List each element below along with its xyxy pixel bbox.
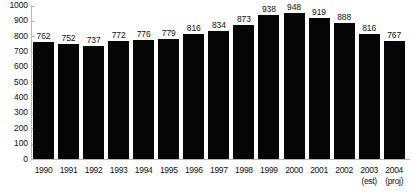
bar[interactable] [258, 15, 279, 159]
y-axis-tick-labels: 10009008007006005004003002001000 [0, 0, 28, 192]
x-axis-category-label: 2004 [379, 165, 410, 175]
x-axis-category-note: (proj) [379, 176, 410, 186]
bar[interactable] [384, 41, 405, 159]
bar[interactable] [133, 40, 154, 159]
bar[interactable] [309, 18, 330, 159]
y-axis-tick-label: 500 [2, 78, 28, 87]
bar[interactable] [284, 13, 305, 159]
bar-group[interactable]: 7672004(proj) [384, 0, 405, 192]
bar-group[interactable]: 8882002 [334, 0, 355, 192]
bar-group[interactable]: 7791995 [158, 0, 179, 192]
y-axis-tick-label: 900 [2, 16, 28, 25]
bar[interactable] [334, 23, 355, 159]
bar-group[interactable]: 7761994 [133, 0, 154, 192]
bar-group[interactable]: 9192001 [309, 0, 330, 192]
bar-group[interactable]: 7371992 [83, 0, 104, 192]
bar-group[interactable]: 8731998 [233, 0, 254, 192]
bar[interactable] [233, 25, 254, 159]
bar-chart: 10009008007006005004003002001000 7621990… [0, 0, 415, 192]
bar[interactable] [108, 41, 129, 160]
y-axis-tick-label: 600 [2, 62, 28, 71]
y-axis-tick-label: 100 [2, 139, 28, 148]
bar[interactable] [359, 34, 380, 159]
bar-group[interactable]: 7721993 [108, 0, 129, 192]
plot-area: 7621990752199173719927721993776199477919… [32, 0, 415, 192]
bar-group[interactable]: 9381999 [258, 0, 279, 192]
bar-group[interactable]: 9482000 [284, 0, 305, 192]
bar[interactable] [58, 44, 79, 159]
y-axis-tick-label: 700 [2, 47, 28, 56]
y-axis-tick-label: 1000 [2, 1, 28, 10]
bar-value-label: 767 [380, 31, 409, 40]
y-axis-tick-label: 800 [2, 32, 28, 41]
bar-group[interactable]: 8161996 [183, 0, 204, 192]
bar-value-label: 873 [229, 15, 258, 24]
bar[interactable] [33, 42, 54, 159]
bar[interactable] [158, 39, 179, 159]
bar-group[interactable]: 7621990 [33, 0, 54, 192]
bar-group[interactable]: 8341997 [208, 0, 229, 192]
y-axis-tick-label: 400 [2, 93, 28, 102]
bar[interactable] [208, 31, 229, 159]
y-axis-tick-label: 300 [2, 108, 28, 117]
bar[interactable] [183, 34, 204, 159]
bar-group[interactable]: 7521991 [58, 0, 79, 192]
bar[interactable] [83, 46, 104, 159]
bar-group[interactable]: 8162003(est) [359, 0, 380, 192]
bar-value-label: 888 [330, 13, 359, 22]
y-axis-tick-label: 200 [2, 124, 28, 133]
y-axis-tick-label: 0 [2, 155, 28, 164]
